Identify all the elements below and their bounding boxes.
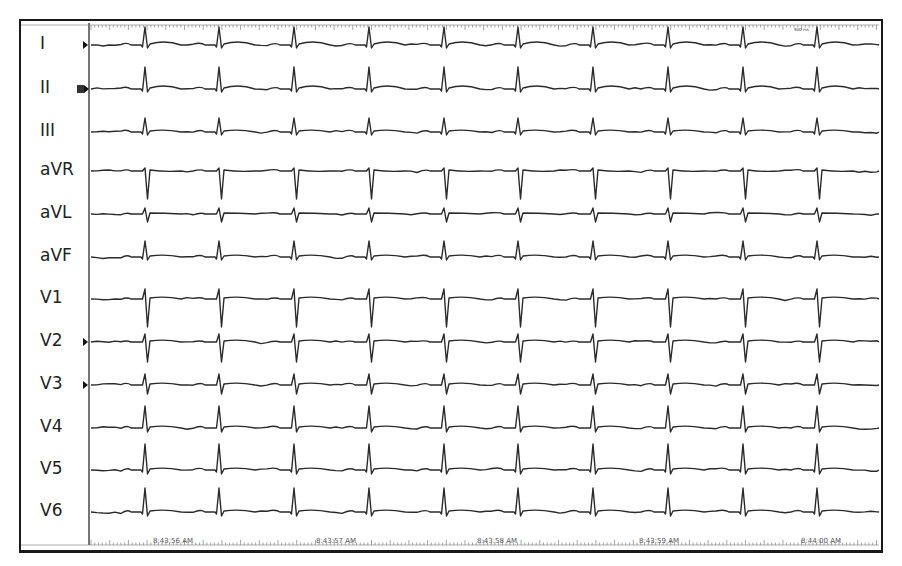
trace-v1 (91, 289, 879, 327)
trace-v3 (91, 374, 879, 394)
ecg-plot (0, 0, 902, 566)
time-tick-label: 8:43:56 AM (153, 537, 193, 545)
trace-ii (91, 67, 879, 92)
time-tick-label: 8:44:00 AM (801, 537, 841, 545)
time-tick-label: 8:43:59 AM (639, 537, 679, 545)
trace-v5 (91, 444, 879, 474)
lead-label-avf: aVF (40, 245, 72, 265)
lead-label-iii: III (40, 120, 55, 140)
time-tick-label: 8:43:57 AM (316, 537, 356, 545)
lead-label-v2: V2 (40, 330, 62, 350)
time-ruler (91, 25, 876, 545)
lead-label-avl: aVL (40, 202, 72, 222)
lead-label-ii: II (40, 77, 50, 97)
lead-label-i: I (40, 33, 45, 53)
trace-v2 (91, 334, 879, 362)
lead-marker-arrow-icon (83, 41, 88, 49)
trace-i (91, 27, 879, 48)
ecg-traces (91, 27, 879, 516)
trace-v6 (91, 488, 879, 516)
lead-marker-arrow-icon (83, 338, 88, 346)
trace-v4 (91, 406, 879, 432)
lead-label-v1: V1 (40, 287, 62, 307)
trace-avf (91, 241, 879, 260)
lead-marker-arrow-icon (83, 381, 88, 389)
lead-markers (77, 41, 89, 389)
lead-label-v5: V5 (40, 458, 62, 478)
trace-avr (91, 168, 879, 199)
time-tick-label: 8:43:58 AM (477, 537, 517, 545)
trace-iii (91, 118, 879, 135)
scale-marker-label: 500 ms (794, 27, 809, 32)
lead-label-avr: aVR (40, 159, 74, 179)
lead-label-v6: V6 (40, 500, 62, 520)
lead-label-v3: V3 (40, 373, 62, 393)
lead-marker-box-icon (77, 85, 84, 93)
lead-label-v4: V4 (40, 416, 62, 436)
lead-marker-arrow-icon (84, 85, 89, 93)
trace-avl (91, 208, 879, 222)
